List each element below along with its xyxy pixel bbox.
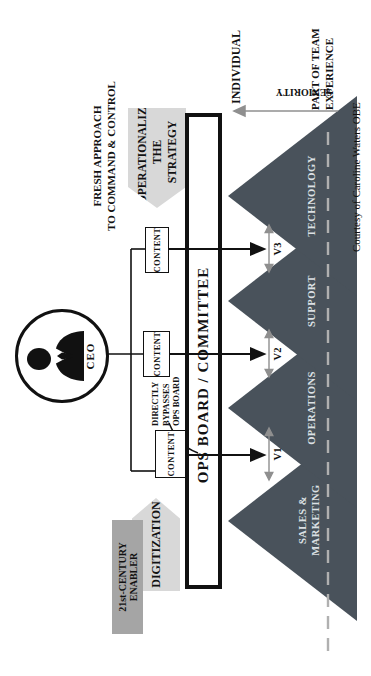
content-box-3: CONTENT	[145, 227, 169, 273]
content-box-2-label: CONTENT	[152, 332, 162, 377]
valley-span-v1-left-head	[265, 473, 273, 481]
team-experience-line2: EXPERIENCE	[323, 28, 337, 110]
pyramids-group	[228, 96, 357, 621]
content-box-1-label: CONTENT	[166, 432, 176, 477]
valley-label-v2: V2	[272, 339, 283, 369]
individual-label: INDIVIDUAL	[229, 30, 244, 104]
bypass-note: DIRECTLY BYPASSES OPS BOARD	[150, 377, 182, 426]
pyramid-label-sales-marketing: SALES & MARKETING	[296, 464, 322, 576]
pyramid-label-support: SUPPORT	[305, 256, 318, 346]
diagram-viewport: DIGITIZATION OPERATIONALIZE THE STRATEGY…	[0, 0, 371, 676]
credit-label: Courtesy of Caroline Waters OBE	[350, 102, 362, 252]
valley-arrow-v3-head	[251, 244, 264, 255]
pyramid-label-operations: OPERATIONS	[305, 352, 318, 464]
strategy-diagram: DIGITIZATION OPERATIONALIZE THE STRATEGY…	[0, 0, 371, 676]
valley-arrow-v2-head	[251, 349, 264, 360]
pyramid-label-sales-line2: MARKETING	[309, 464, 322, 576]
pyramid-label-sales-line1: SALES &	[296, 464, 309, 576]
valley-arrows-group	[167, 244, 264, 461]
team-experience-line1: PART OF TEAM	[309, 28, 323, 110]
valley-arrow-v1-head	[251, 450, 264, 461]
content-box-3-label: CONTENT	[152, 228, 162, 273]
pyramid-label-technology: TECHNOLOGY	[305, 140, 318, 252]
bypass-line2: BYPASSES	[161, 377, 172, 426]
content-box-2: CONTENT	[143, 331, 170, 377]
seniority-arrow-head	[234, 106, 245, 116]
valley-label-v1: V1	[272, 439, 283, 469]
content-box-1: CONTENT	[155, 430, 186, 478]
valley-label-v3: V3	[272, 234, 283, 264]
team-experience-label: PART OF TEAM EXPERIENCE	[309, 28, 336, 110]
bypass-line1: DIRECTLY	[150, 377, 161, 426]
bypass-line3: OPS BOARD	[171, 377, 182, 426]
